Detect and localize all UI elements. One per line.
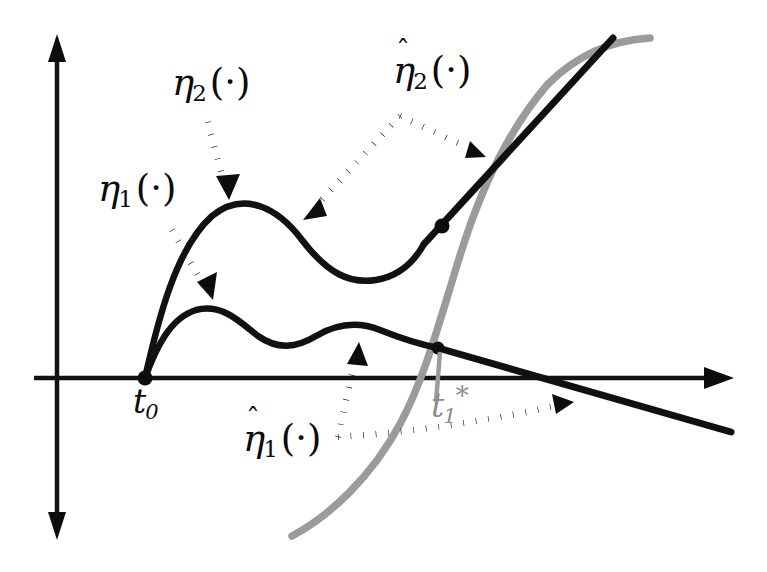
eta2hat-leader-right-arrowhead: [465, 141, 486, 158]
vertical-axis-arrow-up: [48, 34, 66, 62]
label-t1-star: t1*: [431, 383, 469, 427]
eta1-curve: [145, 309, 438, 379]
eta2-subscript: 2: [192, 80, 207, 106]
eta2hat-leader-left-line: [314, 116, 400, 208]
eta2-curve: [145, 204, 424, 378]
label-eta2-hat: ˆη2(·): [393, 52, 471, 93]
eta2-hat-argument: (·): [431, 49, 472, 92]
eta2-argument: (·): [210, 61, 251, 104]
label-eta1: η1(·): [98, 170, 176, 211]
t1-star-subscript: 1: [443, 404, 456, 428]
eta2hat-leader-left-arrowhead: [303, 198, 327, 220]
diagram-canvas: η1(·) η2(·) ˆη2(·) ˆη1(·) t0 t1*: [0, 0, 767, 572]
gray-curve-group: [292, 38, 650, 536]
eta2-base: η: [172, 61, 194, 104]
eta2-hat-glyph: ˆ: [396, 37, 410, 65]
axes-group: [34, 34, 734, 540]
eta1hat-leader-right-arrowhead: [552, 394, 574, 414]
leader-arrows-group: [172, 116, 574, 437]
eta1hat-leader-up-arrowhead: [347, 342, 368, 366]
eta2-leader-arrowhead: [216, 174, 240, 200]
label-t0: t0: [133, 385, 159, 423]
eta1-hat-glyph: ˆ: [246, 405, 260, 433]
eta1-subscript: 1: [118, 186, 133, 212]
eta2-hat-subscript: 2: [413, 68, 428, 94]
eta1-hat-wrap: ˆη: [243, 420, 265, 457]
eta1-hat-descending-line: [438, 348, 731, 432]
figure-svg: [0, 0, 767, 572]
eta2hat-leader-right-line: [400, 116, 473, 150]
eta1-argument: (·): [136, 167, 177, 210]
t0-subscript: 0: [145, 400, 158, 424]
eta1-base: η: [98, 167, 120, 210]
horizontal-axis-arrow-right: [704, 367, 734, 389]
eta1-hat-subscript: 1: [263, 436, 278, 462]
eta1-leader-arrowhead: [197, 272, 217, 300]
t1-star-superscript: *: [456, 381, 469, 411]
eta2-hat-anchor-dot: [435, 219, 450, 234]
gray-sigmoid-curve: [292, 38, 650, 536]
eta2-hat-wrap: ˆη: [393, 52, 415, 89]
eta1-hat-argument: (·): [281, 417, 322, 460]
eta1hat-leader-up-line: [338, 360, 355, 437]
vertical-axis-arrow-down: [48, 512, 66, 540]
label-eta1-hat: ˆη1(·): [243, 420, 321, 461]
label-eta2: η2(·): [172, 64, 250, 105]
